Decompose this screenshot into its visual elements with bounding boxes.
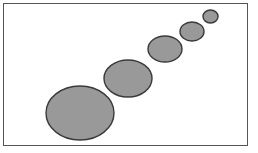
bubble-5 (203, 10, 218, 23)
bubble-3 (148, 36, 182, 62)
bubble-1 (46, 86, 114, 140)
plot-canvas (0, 0, 258, 153)
bubble-2 (104, 60, 152, 97)
bubble-4 (180, 22, 204, 41)
figure-root (0, 0, 258, 153)
